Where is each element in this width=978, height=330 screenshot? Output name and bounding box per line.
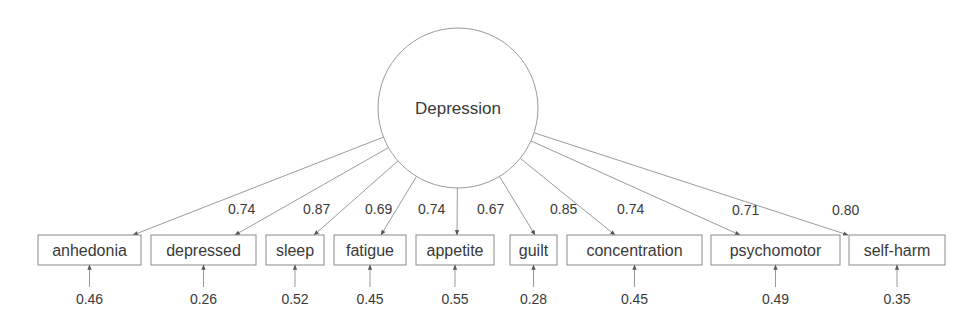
indicator-label: guilt <box>519 242 549 259</box>
indicator-label: concentration <box>586 242 682 259</box>
loading-value: 0.69 <box>365 201 392 217</box>
loading-value: 0.85 <box>550 201 577 217</box>
indicator-anhedonia: anhedonia0.46 <box>38 235 141 307</box>
loading-value: 0.74 <box>418 201 445 217</box>
latent-label: Depression <box>415 99 501 118</box>
loading-arrow-anhedonia <box>133 137 384 235</box>
loading-value: 0.74 <box>617 201 644 217</box>
loading-value: 0.67 <box>477 201 504 217</box>
indicator-label: sleep <box>276 242 314 259</box>
indicator-psychomotor: psychomotor0.49 <box>711 235 840 307</box>
loading-arrow-depressed <box>235 148 389 235</box>
indicator-label: anhedonia <box>52 242 127 259</box>
latent-factor: Depression <box>378 28 538 188</box>
error-variance-value: 0.28 <box>520 291 547 307</box>
indicator-guilt: guilt0.28 <box>510 235 557 307</box>
error-variance-value: 0.45 <box>356 291 383 307</box>
error-variance-value: 0.46 <box>76 291 103 307</box>
indicator-appetite: appetite0.55 <box>416 235 494 307</box>
indicator-label: self-harm <box>864 242 931 259</box>
loading-arrow-sleep <box>314 161 398 235</box>
loading-arrow-concentration <box>520 158 615 235</box>
error-variance-value: 0.49 <box>762 291 789 307</box>
indicator-self-harm: self-harm0.35 <box>849 235 945 307</box>
factor-diagram: 0.740.870.690.740.670.850.740.710.80 Dep… <box>0 0 978 330</box>
indicator-label: fatigue <box>346 242 394 259</box>
loading-value: 0.87 <box>303 201 330 217</box>
loading-arrow-guilt <box>500 176 536 235</box>
indicator-concentration: concentration0.45 <box>567 235 702 307</box>
indicator-label: depressed <box>166 242 241 259</box>
loading-value: 0.74 <box>228 201 255 217</box>
loading-value: 0.80 <box>832 202 859 218</box>
indicator-fatigue: fatigue0.45 <box>334 235 406 307</box>
indicator-boxes: anhedonia0.46depressed0.26sleep0.52fatig… <box>38 235 945 307</box>
indicator-label: appetite <box>427 242 484 259</box>
indicator-label: psychomotor <box>730 242 822 259</box>
error-variance-value: 0.35 <box>883 291 910 307</box>
loading-arrow-psychomotor <box>531 141 740 235</box>
error-variance-value: 0.26 <box>190 291 217 307</box>
indicator-sleep: sleep0.52 <box>266 235 324 307</box>
loading-arrow-self-harm <box>534 133 848 235</box>
error-variance-value: 0.52 <box>281 291 308 307</box>
error-variance-value: 0.55 <box>441 291 468 307</box>
indicator-depressed: depressed0.26 <box>151 235 256 307</box>
error-variance-value: 0.45 <box>621 291 648 307</box>
